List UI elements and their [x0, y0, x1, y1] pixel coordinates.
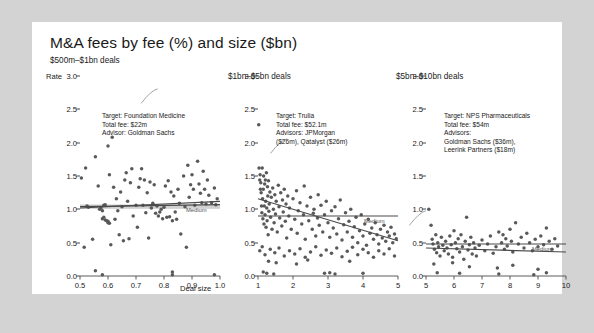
data-point [96, 184, 100, 188]
data-point [438, 254, 442, 258]
data-point [545, 271, 549, 275]
data-point [489, 234, 493, 238]
data-point [519, 236, 523, 240]
data-point [456, 237, 460, 241]
data-point [469, 236, 473, 240]
data-point [496, 266, 500, 270]
y-tick-mark [422, 176, 426, 177]
data-point [379, 228, 383, 232]
data-point [525, 232, 529, 236]
data-point [259, 191, 263, 195]
data-point [147, 236, 151, 240]
data-point [265, 171, 269, 175]
y-tick-mark [254, 109, 258, 110]
data-point [94, 269, 98, 273]
x-tick-label: 0.9 [187, 281, 198, 290]
data-point [182, 174, 186, 178]
y-tick-mark [254, 242, 258, 243]
annotation-line: ($26m), Qatalyst ($26m) [276, 138, 347, 147]
annotation-callout: Target: Foundation MedicineTotal fee: $2… [102, 112, 185, 138]
data-point [389, 226, 393, 230]
data-point [298, 201, 302, 205]
data-point [325, 248, 329, 252]
data-point [306, 258, 310, 262]
data-point [281, 198, 285, 202]
data-point [262, 270, 266, 274]
data-point [176, 188, 180, 192]
data-point [129, 181, 133, 185]
data-point [545, 226, 549, 230]
data-point [312, 208, 316, 212]
data-point [115, 197, 119, 201]
annotation-line: Leerink Partners ($18m) [444, 146, 530, 155]
data-point [434, 233, 438, 237]
data-point [119, 190, 123, 194]
data-point [172, 194, 176, 198]
data-point [267, 179, 271, 183]
data-point [349, 208, 353, 212]
data-point [361, 234, 365, 238]
data-point [556, 244, 560, 248]
data-point [260, 166, 264, 170]
annotation-line: Total fee: $22m [102, 121, 185, 130]
x-tick-label: 5 [424, 281, 428, 290]
data-point [328, 236, 332, 240]
data-point [189, 183, 193, 187]
data-point [302, 184, 306, 188]
data-point [131, 214, 135, 218]
data-point [340, 238, 344, 242]
data-point [344, 211, 348, 215]
data-point [270, 196, 274, 200]
data-point [300, 222, 304, 226]
y-tick-mark [422, 242, 426, 243]
data-point [351, 246, 355, 250]
data-point [265, 219, 269, 223]
data-point [138, 177, 142, 181]
x-tick-label: 1 [256, 281, 260, 290]
data-point [272, 272, 276, 276]
data-point [435, 251, 439, 255]
data-point [108, 173, 112, 177]
data-point [284, 202, 288, 206]
data-point [144, 211, 148, 215]
data-point [112, 186, 116, 190]
data-point [197, 182, 201, 186]
data-point [192, 188, 196, 192]
annotation-callout: Target: TruliaTotal fee: $52.1mAdvisors:… [276, 112, 347, 146]
x-tick-label: 6 [452, 281, 456, 290]
data-point [185, 246, 189, 250]
data-point [346, 230, 350, 234]
data-point [82, 246, 86, 250]
data-point [274, 261, 278, 265]
data-point [284, 220, 288, 224]
data-point [339, 198, 343, 202]
x-tick-label: 2 [291, 281, 295, 290]
data-point [127, 237, 131, 241]
data-point [268, 190, 272, 194]
x-tick-label: 0.5 [75, 281, 86, 290]
data-point [276, 230, 280, 234]
data-point [330, 209, 334, 213]
data-point [260, 245, 264, 249]
x-tick-label: 0.6 [103, 281, 114, 290]
data-point [393, 232, 397, 236]
annotation-line: Goldman Sachs ($36m), [444, 138, 530, 147]
data-point [547, 240, 551, 244]
data-point [126, 200, 130, 204]
data-point [152, 183, 156, 187]
data-point [272, 221, 276, 225]
data-point [116, 209, 120, 213]
data-point [435, 271, 439, 275]
data-point [314, 234, 318, 238]
data-point [269, 248, 273, 252]
data-point [468, 243, 472, 247]
data-point [494, 245, 498, 249]
data-point [497, 272, 501, 276]
annotation-line: Target: Foundation Medicine [102, 112, 185, 121]
x-tick-label: 7 [480, 281, 484, 290]
data-point [459, 233, 463, 237]
data-point [553, 237, 557, 241]
data-point [442, 249, 446, 253]
data-point [257, 166, 261, 170]
data-point [293, 218, 297, 222]
